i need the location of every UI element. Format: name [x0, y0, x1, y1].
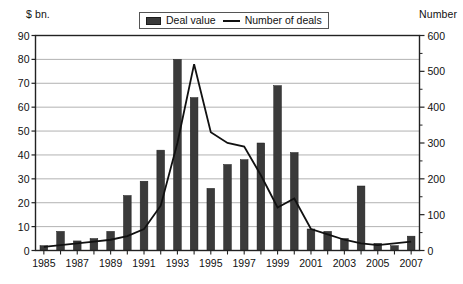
bar-1992	[157, 150, 165, 250]
bar-1996	[224, 165, 232, 251]
bar-2001	[307, 229, 315, 251]
ytick-label-left-60: 60	[6, 101, 30, 113]
ytick-label-right-200: 200	[428, 173, 454, 185]
ytick-label-right-600: 600	[428, 30, 454, 42]
bar-2004	[357, 186, 365, 251]
bar-1990	[123, 196, 131, 251]
ytick-label-left-30: 30	[6, 173, 30, 185]
bar-1989	[107, 231, 115, 250]
ytick-label-left-50: 50	[6, 125, 30, 137]
plot-area: 0102030405060708090010020030040050060019…	[0, 0, 463, 284]
plot-svg	[0, 0, 463, 284]
ytick-label-left-0: 0	[6, 245, 30, 257]
ytick-label-right-300: 300	[428, 137, 454, 149]
bar-1999	[274, 86, 282, 251]
ytick-label-left-90: 90	[6, 30, 30, 42]
ytick-label-left-10: 10	[6, 221, 30, 233]
xtick-label-2007: 2007	[391, 257, 431, 269]
ytick-label-left-70: 70	[6, 77, 30, 89]
ytick-label-right-400: 400	[428, 101, 454, 113]
bar-1986	[57, 231, 65, 250]
ytick-label-right-500: 500	[428, 65, 454, 77]
ytick-label-right-100: 100	[428, 209, 454, 221]
bar-1991	[140, 181, 148, 250]
bar-1994	[190, 98, 198, 251]
ytick-label-left-20: 20	[6, 197, 30, 209]
bar-1995	[207, 188, 215, 250]
ytick-label-left-40: 40	[6, 149, 30, 161]
bar-2000	[290, 153, 298, 251]
bar-1997	[240, 160, 248, 251]
bar-2006	[391, 246, 399, 251]
ytick-label-left-80: 80	[6, 53, 30, 65]
bar-1998	[257, 143, 265, 251]
bar-2007	[407, 236, 415, 250]
deal-value-and-number-of-deals-chart: $ bn. Number Deal value Number of deals …	[0, 0, 463, 284]
ytick-label-right-0: 0	[428, 245, 454, 257]
